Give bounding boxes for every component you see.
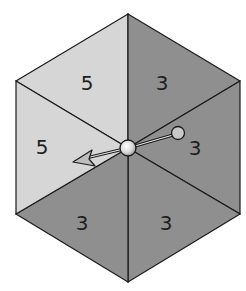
section-label-top-right: 3 xyxy=(156,71,169,95)
section-label-right: 3 xyxy=(189,136,202,160)
spinner-diagram: 5 3 3 3 3 5 xyxy=(0,0,246,291)
arrow-tail-circle-icon xyxy=(172,127,185,140)
hexagon-spinner: 5 3 3 3 3 5 xyxy=(0,0,246,291)
section-label-top-left: 5 xyxy=(81,71,94,95)
section-label-left: 5 xyxy=(36,135,49,159)
section-label-bottom-right: 3 xyxy=(160,211,173,235)
section-label-bottom-left: 3 xyxy=(76,211,89,235)
pivot-icon xyxy=(120,140,136,156)
